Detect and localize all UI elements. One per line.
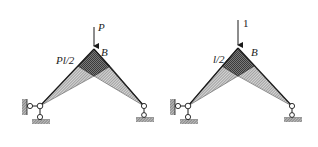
figure-real-load <box>22 27 154 124</box>
ground-hatch <box>32 120 50 124</box>
diagram-canvas <box>0 0 318 147</box>
ground-hatch <box>136 118 154 122</box>
moment-area-left-member <box>40 66 94 106</box>
hinge-icon <box>289 103 294 108</box>
hinge-icon <box>185 103 191 109</box>
joint-label: B <box>251 47 258 58</box>
figure-unit-load <box>170 20 302 124</box>
right-support <box>284 103 302 122</box>
hinge-icon <box>37 114 42 119</box>
ground-hatch <box>180 120 198 124</box>
hinge-icon <box>37 103 43 109</box>
wall-hatch <box>22 99 27 115</box>
hinge-icon <box>175 103 180 108</box>
moment-area-left-member <box>188 66 238 106</box>
hinge-icon <box>290 113 295 118</box>
load-label: 1 <box>243 18 249 29</box>
wall-hatch <box>170 99 175 115</box>
joint-label: B <box>101 47 108 58</box>
moment-value-label: Pl/2 <box>56 55 74 66</box>
load-label: P <box>98 22 105 33</box>
right-support <box>136 103 154 122</box>
moment-value-label: l/2 <box>213 54 225 65</box>
hinge-icon <box>141 103 146 108</box>
hinge-icon <box>185 114 190 119</box>
moment-area-right-member <box>94 66 144 106</box>
hinge-icon <box>27 103 32 108</box>
hinge-icon <box>142 113 147 118</box>
moment-area-right-member <box>238 66 292 106</box>
ground-hatch <box>284 118 302 122</box>
